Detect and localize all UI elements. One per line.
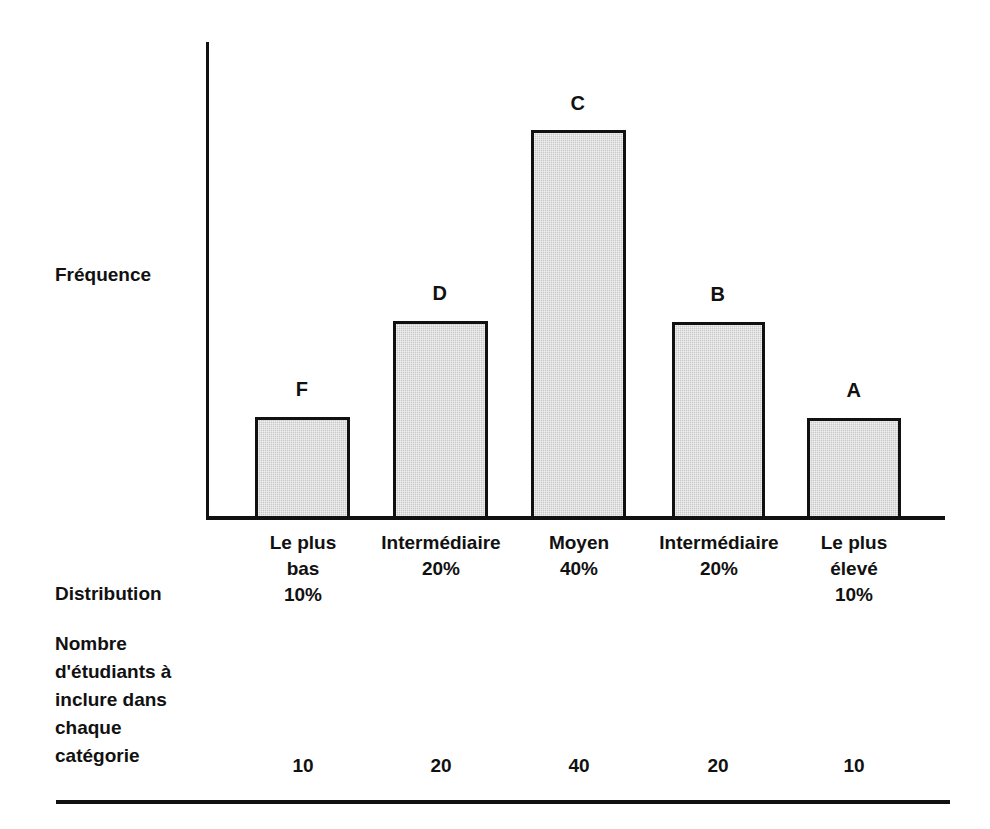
category-line1: Intermédiaire <box>659 532 778 553</box>
category-column-lowest: Le plus bas 10% <box>233 530 373 608</box>
bar-label-c: C <box>548 92 608 115</box>
bar-a <box>807 418 901 519</box>
bar-chart: Fréquence F D C B A <box>0 0 990 560</box>
bar-label-b: B <box>688 283 748 306</box>
count-value-highest: 10 <box>784 755 924 777</box>
category-percent: 40% <box>511 556 647 582</box>
category-line2: bas <box>287 558 320 579</box>
bar-f <box>255 417 350 519</box>
bar-b <box>672 322 765 519</box>
category-percent: 20% <box>645 556 793 582</box>
student-count-row-label: Nombre d'étudiants à inclure dans chaque… <box>55 630 171 770</box>
count-value-lowest: 10 <box>233 755 373 777</box>
category-line2: élevé <box>830 558 878 579</box>
category-line1: Le plus <box>821 532 888 553</box>
category-percent: 10% <box>233 582 373 608</box>
count-value-intermediate-high: 20 <box>648 755 788 777</box>
count-value-average: 40 <box>509 755 649 777</box>
bar-label-f: F <box>272 378 332 401</box>
category-line1: Le plus <box>270 532 337 553</box>
category-column-intermediate-high: Intermédiaire 20% <box>645 530 793 582</box>
category-line1: Intermédiaire <box>381 532 500 553</box>
y-axis-title: Fréquence <box>55 264 151 286</box>
bar-c <box>531 130 626 519</box>
category-column-highest: Le plus élevé 10% <box>786 530 922 608</box>
category-column-intermediate-low: Intermédiaire 20% <box>367 530 515 582</box>
category-percent: 10% <box>786 582 922 608</box>
category-line1: Moyen <box>549 532 609 553</box>
category-percent: 20% <box>367 556 515 582</box>
distribution-row-label: Distribution <box>55 580 162 608</box>
count-value-intermediate-low: 20 <box>371 755 511 777</box>
bar-label-a: A <box>824 379 884 402</box>
bottom-divider <box>56 800 950 804</box>
category-column-average: Moyen 40% <box>511 530 647 582</box>
bar-d <box>393 321 488 519</box>
y-axis-line <box>206 42 209 519</box>
bar-label-d: D <box>410 282 470 305</box>
